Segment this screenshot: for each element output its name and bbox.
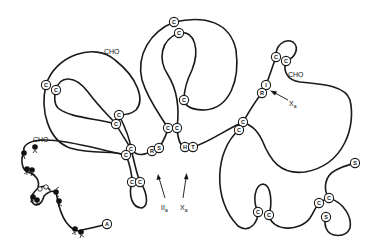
svg-text:C: C — [175, 125, 179, 131]
svg-text:C: C — [124, 152, 128, 158]
cho-label-1: CHO — [104, 48, 120, 55]
svg-text:C: C — [241, 119, 245, 125]
svg-text:C: C — [284, 58, 288, 64]
residue-c: C — [314, 198, 323, 207]
svg-text:H: H — [183, 144, 187, 150]
residue-c: C — [169, 17, 178, 26]
svg-text:C: C — [114, 121, 118, 127]
svg-text:S: S — [157, 145, 161, 151]
residue-s: S — [350, 158, 359, 167]
svg-text:R: R — [150, 148, 154, 154]
svg-text:C: C — [54, 87, 58, 93]
polypeptide-chain — [22, 19, 355, 235]
residue-c: C — [111, 119, 120, 128]
residue-c: C — [281, 56, 290, 65]
svg-text:C: C — [327, 195, 331, 201]
svg-text:C: C — [166, 125, 170, 131]
residue-s: S — [154, 143, 163, 152]
svg-text:C: C — [274, 54, 278, 60]
residue-s: S — [321, 212, 330, 221]
residue-c: C — [264, 210, 273, 219]
svg-text:C: C — [44, 82, 48, 88]
residue-c: C — [172, 123, 181, 132]
svg-text:C: C — [182, 97, 186, 103]
residue-c: C — [121, 150, 130, 159]
residue-c: C — [324, 193, 333, 202]
factor-Xa-label-1: Xa — [180, 204, 188, 213]
residue-c: C — [174, 28, 183, 37]
residue-c: C — [271, 52, 280, 61]
svg-text:S: S — [353, 160, 357, 166]
svg-text:C: C — [177, 30, 181, 36]
cho-label-2: CHO — [33, 136, 49, 143]
cho-label-3: CHO — [288, 71, 304, 78]
residue-c: C — [41, 80, 50, 89]
protein-chain-diagram: CCCCCCCCCCCRSHTCCCCCCIRCCCCSSA CHO CHO C… — [0, 0, 378, 250]
factor-Xa-label-2: Xa — [289, 100, 297, 109]
residue-c: C — [51, 85, 60, 94]
residue-a: A — [102, 219, 111, 228]
residue-c: C — [163, 123, 172, 132]
svg-text:S: S — [324, 214, 328, 220]
residue-c: C — [135, 177, 144, 186]
residue-c: C — [179, 95, 188, 104]
residue-c: C — [253, 207, 262, 216]
svg-text:C: C — [267, 212, 271, 218]
residue-markers: CCCCCCCCCCCRSHTCCCCCCIRCCCCSSA — [41, 17, 359, 228]
svg-text:C: C — [172, 19, 176, 25]
residue-c: C — [114, 110, 123, 119]
svg-text:C: C — [317, 200, 321, 206]
residue-c: C — [234, 125, 243, 134]
factor-IIa-label: IIa — [161, 204, 168, 213]
residue-r: R — [257, 88, 266, 97]
svg-text:C: C — [237, 127, 241, 133]
svg-text:C: C — [138, 179, 142, 185]
residue-t: T — [188, 142, 197, 151]
svg-text:C: C — [130, 179, 134, 185]
svg-text:C: C — [256, 209, 260, 215]
svg-text:A: A — [105, 221, 109, 227]
svg-text:C: C — [117, 112, 121, 118]
svg-text:R: R — [260, 90, 264, 96]
